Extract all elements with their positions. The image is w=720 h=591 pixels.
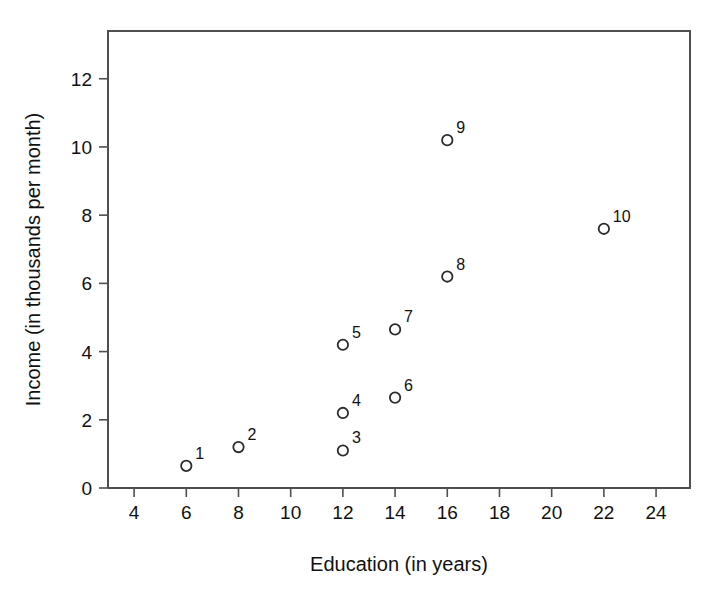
data-point-marker-6[interactable] bbox=[390, 392, 400, 402]
data-point-label-8: 8 bbox=[456, 256, 465, 273]
x-tick-label-18: 18 bbox=[489, 502, 510, 523]
data-point-label-10: 10 bbox=[613, 208, 631, 225]
data-point-label-2: 2 bbox=[247, 426, 256, 443]
x-tick-label-4: 4 bbox=[129, 502, 140, 523]
y-tick-label-6: 6 bbox=[81, 273, 92, 294]
data-point-marker-10[interactable] bbox=[599, 224, 609, 234]
x-tick-label-20: 20 bbox=[541, 502, 562, 523]
x-tick-label-16: 16 bbox=[437, 502, 458, 523]
data-point-label-1: 1 bbox=[195, 445, 204, 462]
y-tick-label-10: 10 bbox=[71, 137, 92, 158]
y-axis-title: Income (in thousands per month) bbox=[22, 113, 44, 407]
data-point-label-5: 5 bbox=[352, 324, 361, 341]
data-point-marker-5[interactable] bbox=[338, 340, 348, 350]
data-point-label-3: 3 bbox=[352, 429, 361, 446]
data-point-marker-8[interactable] bbox=[442, 271, 452, 281]
x-tick-label-8: 8 bbox=[233, 502, 244, 523]
x-tick-label-6: 6 bbox=[181, 502, 192, 523]
x-tick-label-22: 22 bbox=[593, 502, 614, 523]
x-axis-title: Education (in years) bbox=[310, 553, 488, 575]
data-point-marker-4[interactable] bbox=[338, 408, 348, 418]
data-point-marker-9[interactable] bbox=[442, 135, 452, 145]
data-point-marker-7[interactable] bbox=[390, 324, 400, 334]
y-tick-label-8: 8 bbox=[81, 205, 92, 226]
plot-canvas: 4681012141618202224024681012Education (i… bbox=[0, 0, 720, 591]
data-point-label-9: 9 bbox=[456, 119, 465, 136]
y-tick-label-0: 0 bbox=[81, 478, 92, 499]
x-tick-label-14: 14 bbox=[385, 502, 407, 523]
x-tick-label-12: 12 bbox=[332, 502, 353, 523]
y-tick-label-2: 2 bbox=[81, 410, 92, 431]
data-point-label-4: 4 bbox=[352, 392, 361, 409]
plot-frame bbox=[108, 31, 690, 488]
x-tick-label-24: 24 bbox=[646, 502, 668, 523]
data-point-marker-1[interactable] bbox=[181, 461, 191, 471]
x-tick-label-10: 10 bbox=[280, 502, 301, 523]
y-tick-label-4: 4 bbox=[81, 342, 92, 363]
data-point-marker-3[interactable] bbox=[338, 445, 348, 455]
y-tick-label-12: 12 bbox=[71, 69, 92, 90]
data-point-label-6: 6 bbox=[404, 377, 413, 394]
data-point-marker-2[interactable] bbox=[233, 442, 243, 452]
data-point-label-7: 7 bbox=[404, 308, 413, 325]
scatter-plot-figure: 4681012141618202224024681012Education (i… bbox=[0, 0, 720, 591]
